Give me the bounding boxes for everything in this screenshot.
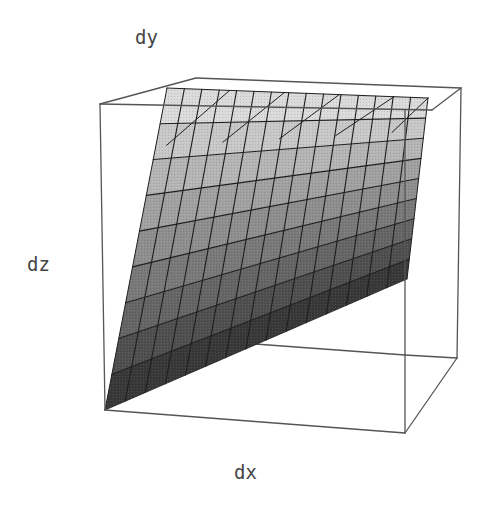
box-edge-back-right-vertical [457, 88, 461, 358]
surface-plot: dy dz dx [0, 0, 487, 509]
box-edge-top-right [432, 88, 461, 110]
box-edge-top-back [196, 78, 461, 88]
box-edge-bottom-front [105, 410, 405, 433]
box-edge-bottom-back-right [405, 355, 457, 358]
box-edge-bottom-back [255, 344, 405, 355]
box-edge-front-left-vertical [100, 104, 105, 410]
axis-label-x: dx [234, 463, 257, 482]
box-edge-bottom-right [405, 358, 457, 433]
surface-mesh [105, 88, 428, 410]
axis-label-y: dy [135, 28, 158, 47]
axis-label-z: dz [27, 255, 50, 274]
surface-plot-canvas [0, 0, 487, 509]
